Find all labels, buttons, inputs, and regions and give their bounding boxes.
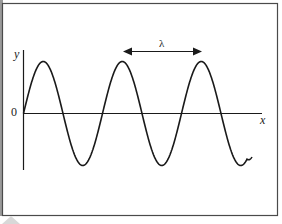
diagram-frame [3,4,278,216]
arrowhead-left-icon [123,48,132,56]
origin-label: 0 [11,106,17,118]
wavelength-label: λ [159,38,164,49]
arrowhead-right-icon [193,48,202,56]
y-axis-label: y [14,48,19,60]
wave-diagram: y 0 x λ [0,0,282,224]
diagram-canvas [0,0,282,224]
x-axis-label: x [260,114,265,126]
corner-mark [2,216,20,224]
